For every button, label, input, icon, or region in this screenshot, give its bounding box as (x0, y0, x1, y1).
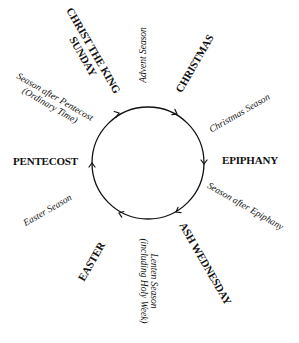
season-advent: Advent Season (139, 15, 149, 95)
feast-epiphany: EPIPHANY (218, 155, 282, 167)
arrow-icon (114, 110, 120, 117)
feast-pentecost: PENTECOST (13, 156, 77, 168)
season-lent-line2: (including Holy Week) (138, 231, 148, 331)
season-lent: Lenten Season (including Holy Week) (138, 231, 158, 331)
liturgical-year-diagram: Advent Season CHRIST THE KING SUNDAY CHR… (0, 0, 299, 343)
season-lent-line1: Lenten Season (148, 231, 158, 331)
